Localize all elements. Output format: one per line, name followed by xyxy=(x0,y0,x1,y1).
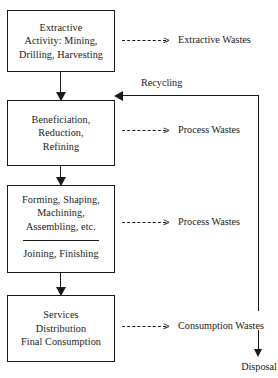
stage-line: Forming, Shaping, xyxy=(8,193,114,206)
flow-connector-extraction-to-beneficiation xyxy=(60,72,61,100)
stage-box-extraction: Extractive Activity: Mining, Drilling, H… xyxy=(7,10,115,72)
arrow-left-icon xyxy=(114,91,123,101)
stage-line: Beneficiation, xyxy=(32,113,91,126)
stage-line: Refining xyxy=(43,140,79,153)
materials-flow-diagram: Extractive Activity: Mining, Drilling, H… xyxy=(0,0,278,378)
waste-stream-process-beneficiation: > Process Wastes xyxy=(122,123,240,137)
disposal-connector-line xyxy=(258,330,259,351)
recycling-return-vertical-line xyxy=(258,95,259,311)
stage-line: Assembling, etc. xyxy=(8,220,114,233)
arrow-head-glyph: > xyxy=(163,35,174,46)
stage-line: Services xyxy=(43,308,78,321)
stage-subgroup-joining: Joining, Finishing xyxy=(8,247,114,260)
arrow-down-icon xyxy=(254,349,262,357)
arrow-head-glyph: > xyxy=(163,321,174,332)
arrow-down-icon xyxy=(56,92,66,101)
stage-line: Final Consumption xyxy=(21,335,101,348)
waste-stream-consumption: > Consumption Wastes xyxy=(122,319,264,333)
waste-stream-label: Process Wastes xyxy=(178,123,240,137)
dashed-arrow-right-icon: > xyxy=(122,34,174,46)
stage-box-divider xyxy=(23,240,99,241)
recycling-return-horizontal-line xyxy=(118,95,259,96)
arrow-head-glyph: > xyxy=(163,125,174,136)
waste-stream-process-manufacturing: > Process Wastes xyxy=(122,215,240,229)
arrow-head-glyph: > xyxy=(163,217,174,228)
stage-box-beneficiation: Beneficiation, Reduction, Refining xyxy=(7,100,115,166)
stage-line: Joining, Finishing xyxy=(8,247,114,260)
stage-line: Extractive xyxy=(40,21,83,34)
stage-line: Activity: Mining, xyxy=(24,34,97,47)
waste-stream-label: Extractive Wastes xyxy=(178,33,251,47)
flow-connector-beneficiation-to-manufacturing xyxy=(60,166,61,185)
stage-line: Machining, xyxy=(8,206,114,219)
stage-line: Drilling, Harvesting xyxy=(19,48,103,61)
arrow-down-icon xyxy=(56,287,66,296)
stage-box-manufacturing: Forming, Shaping, Machining, Assembling,… xyxy=(7,185,115,273)
disposal-label: Disposal xyxy=(228,360,278,373)
waste-stream-label: Process Wastes xyxy=(178,215,240,229)
stage-box-consumption: Services Distribution Final Consumption xyxy=(7,295,115,362)
waste-stream-extractive: > Extractive Wastes xyxy=(122,33,251,47)
stage-line: Distribution xyxy=(36,322,86,335)
waste-stream-label: Consumption Wastes xyxy=(178,319,264,333)
dashed-arrow-right-icon: > xyxy=(122,320,174,332)
dashed-arrow-right-icon: > xyxy=(122,124,174,136)
arrow-down-icon xyxy=(56,177,66,186)
stage-subgroup-fabrication: Forming, Shaping, Machining, Assembling,… xyxy=(8,193,114,233)
recycling-label: Recycling xyxy=(141,76,182,89)
stage-line: Reduction, xyxy=(38,126,83,139)
dashed-arrow-right-icon: > xyxy=(122,216,174,228)
flow-connector-manufacturing-to-consumption xyxy=(60,273,61,295)
